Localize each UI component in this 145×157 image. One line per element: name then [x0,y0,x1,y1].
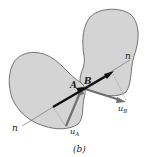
label-point-a: A [69,80,77,90]
label-velocity-b: uB [118,104,127,114]
label-point-b: B [83,76,92,86]
label-n-end: n [125,51,131,61]
velocity-b-arrowhead [116,97,126,103]
label-velocity-a: uA [70,127,79,137]
body-a [9,52,85,128]
impact-diagram: n n A B uA uB (b) [0,0,145,157]
label-n-start: n [12,123,18,133]
figure-caption: (b) [73,144,86,154]
